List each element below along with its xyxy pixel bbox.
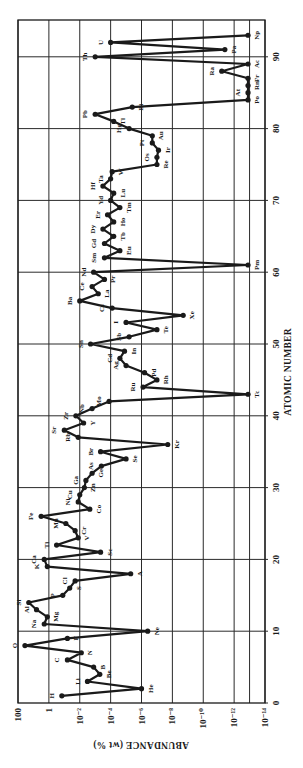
element-label: Sb [115,333,123,341]
data-point-sn [88,341,93,346]
element-label: U [97,40,105,45]
element-label: Ga [72,475,80,484]
data-point-mo [106,399,111,404]
element-label: Y [89,420,97,425]
data-point-np [245,33,250,38]
abundance-tick-label: 10⁻⁶ [137,708,147,725]
data-point-mn [63,521,68,526]
data-point-rh [154,377,159,382]
atomic-number-tick-label: 40 [271,411,281,421]
element-label: Gd [90,239,98,248]
data-point-li [85,679,90,684]
element-label: Cs [98,304,106,312]
data-point-nb [90,406,95,411]
element-label: Ce [78,283,86,291]
data-point-rn [245,83,250,88]
element-label: A [136,571,144,576]
element-label: Yd [97,196,105,205]
data-point-ga [83,478,88,483]
data-point-ti [54,542,59,547]
element-label: Al [23,606,31,613]
data-point-zn [82,485,87,490]
abundance-tick-label: 10⁻¹⁰ [198,708,208,728]
data-point-as [99,463,104,468]
element-label: B [99,664,107,669]
data-point-ta [108,176,113,181]
data-point-cd [117,356,122,361]
data-point-in [122,349,127,354]
data-point-pb [93,112,98,117]
element-label: Au [157,131,165,140]
abundance-ticks: 100110⁻²10⁻⁴10⁻⁶10⁻⁸10⁻¹⁰10⁻¹²10⁻¹⁴ [13,708,270,729]
abundance-tick-label: 100 [13,708,23,722]
element-label: Os [143,153,151,161]
data-point-er [105,212,110,217]
data-point-se [123,456,128,461]
element-label: Be [105,670,113,678]
element-label: Ba [66,296,74,305]
atomic-number-tick-label: 50 [271,339,281,349]
element-label: Tm [125,202,133,213]
data-point-p [60,593,65,598]
abundance-tick-label: 10⁻¹² [229,708,239,727]
element-label: Mg [52,611,60,622]
data-point-ne [145,629,150,634]
data-point-s [67,586,72,591]
abundance-tick-label: 10⁻² [75,708,85,725]
element-label: Pm [253,260,261,270]
data-point-k [45,564,50,569]
data-point-cu [77,492,82,497]
data-point-be [97,672,102,677]
atomic-number-ticks: 0102030405060708090 [265,52,281,705]
abundance-tick-label: 10⁻⁴ [106,708,116,725]
data-point-ac [245,61,250,66]
data-point-cl [73,578,78,583]
element-label: Sr [50,427,58,434]
data-point-fe [39,514,44,519]
data-point-xe [181,313,186,318]
data-point-tb [111,234,116,239]
data-point-gd [102,241,107,246]
data-point-tl [111,119,116,124]
element-label: In [130,348,138,355]
element-label: Co [95,504,103,513]
element-label: Li [74,678,82,685]
element-label: H [48,693,56,699]
atomic-number-tick-label: 60 [271,267,281,277]
element-label: P [49,592,57,597]
data-point-te [154,327,159,332]
data-point-c [65,657,70,662]
data-point-tc [245,392,250,397]
data-point-br [98,449,103,454]
data-point-ru [140,384,145,389]
data-point-po [245,97,250,102]
data-point-nd [91,270,96,275]
element-label: Cl [61,577,69,584]
element-label: As [87,462,95,470]
data-point-ge [90,471,95,476]
element-label: Fr [253,75,261,82]
data-point-f [65,636,70,641]
element-label: Dy [89,224,97,233]
atomic-number-tick-label: 0 [271,700,281,705]
element-label: Cd [106,354,114,363]
element-label: Ti [43,542,51,549]
element-label: Ra [208,66,216,75]
element-label: Nd [80,268,88,277]
element-label: Ca [30,555,38,564]
data-point-n [79,650,84,655]
data-point-b [91,665,96,670]
element-label: Ge [97,469,105,478]
element-label: Pr [109,276,117,283]
element-label: Rb [64,433,72,442]
element-label: La [103,289,111,298]
element-label: Se [131,455,139,462]
data-point-w [110,169,115,174]
data-point-bi [130,104,135,109]
element-label: Cu [66,490,74,499]
data-point-la [96,291,101,296]
data-point-o [22,643,27,648]
data-point-ho [111,219,116,224]
data-point-rb [76,435,81,440]
element-label: Sn [77,340,85,348]
